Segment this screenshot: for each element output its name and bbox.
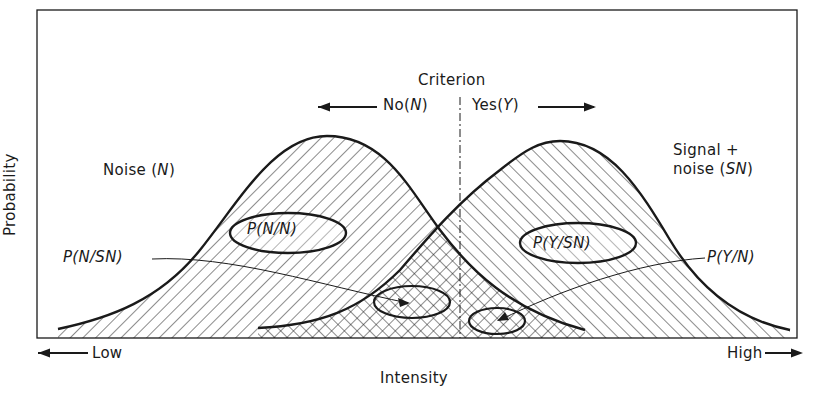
diagram-canvas <box>0 0 820 395</box>
yes-response-label: Yes(Y) <box>472 98 519 113</box>
no-response-label: No(N) <box>383 98 428 113</box>
criterion-label: Criterion <box>418 73 486 88</box>
high-arrow-icon <box>791 349 803 358</box>
signal-noise-label-line1: Signal + <box>673 143 739 158</box>
y-axis-label: Probability <box>3 153 18 236</box>
signal-noise-label-line2: noise (SN) <box>673 162 753 177</box>
signal-detection-diagram: Probability Noise (N) Signal + noise (SN… <box>0 0 820 395</box>
low-arrow-icon <box>38 349 50 358</box>
yes-arrow-icon <box>584 103 596 112</box>
signal-noise-symbol: SN <box>726 160 747 178</box>
no-response-symbol: N <box>410 96 422 114</box>
x-axis-high-label: High <box>727 346 763 361</box>
yes-response-text: Yes <box>472 96 497 114</box>
correct-rejection-label: P(N/N) <box>247 222 297 237</box>
noise-symbol: N <box>157 161 169 179</box>
miss-label: P(N/SN) <box>63 250 123 265</box>
noise-label-text: Noise <box>103 161 146 179</box>
hit-label: P(Y/SN) <box>533 236 591 251</box>
noise-label: Noise (N) <box>103 163 175 178</box>
false-alarm-label: P(Y/N) <box>707 250 755 265</box>
yes-response-symbol: Y <box>503 96 512 114</box>
x-axis-label: Intensity <box>380 371 448 386</box>
signal-noise-label-text: noise <box>673 160 714 178</box>
x-axis-low-label: Low <box>92 346 122 361</box>
no-response-text: No <box>383 96 404 114</box>
no-arrow-icon <box>318 103 330 112</box>
